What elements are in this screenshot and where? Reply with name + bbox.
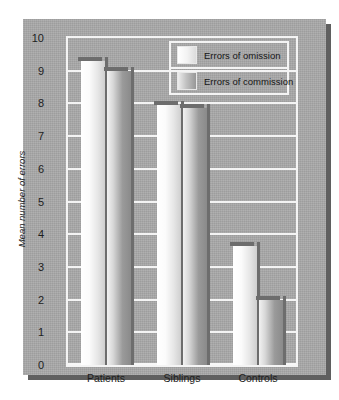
commission-swatch-icon [177,72,197,90]
bar-patients-omission [81,61,105,365]
y-tick-label: 5 [18,196,44,208]
bar-siblings-commission [183,108,207,365]
bar-side-shadow [207,104,210,365]
y-tick-label: 6 [18,163,44,175]
y-tick-label: 2 [18,294,44,306]
y-tick-label: 3 [18,261,44,273]
bar-face [183,108,207,365]
bar-siblings-omission [157,105,181,365]
x-tick-label-siblings: Siblings [164,372,201,384]
y-tick-label: 4 [18,228,44,240]
bar-controls-commission [259,300,283,365]
y-tick-label: 9 [18,65,44,77]
legend-item-omission: Errors of omission [171,43,287,67]
bar-controls-omission [233,246,257,365]
chart-legend: Errors of omission Errors of commission [169,41,289,95]
legend-item-commission: Errors of commission [171,67,287,93]
bar-face [107,71,131,365]
bar-face [157,105,181,365]
y-tick-label: 10 [18,32,44,44]
y-tick-label: 1 [18,326,44,338]
bar-face [259,300,283,365]
legend-label-commission: Errors of commission [204,76,293,87]
bar-patients-commission [107,71,131,365]
bar-side-shadow [131,67,134,365]
omission-swatch-icon [177,46,197,64]
y-tick-label: 8 [18,97,44,109]
x-tick-label-patients: Patients [87,372,125,384]
y-tick-label: 7 [18,130,44,142]
x-tick-label-controls: Controls [238,372,277,384]
bar-face [81,61,105,365]
chart-panel: Mean number of errors 109876543210 Patie… [23,19,326,375]
chart-figure: Mean number of errors 109876543210 Patie… [0,0,339,400]
y-tick-label: 0 [18,359,44,371]
bar-face [233,246,257,365]
bar-side-shadow [283,296,286,365]
legend-label-omission: Errors of omission [204,50,281,61]
